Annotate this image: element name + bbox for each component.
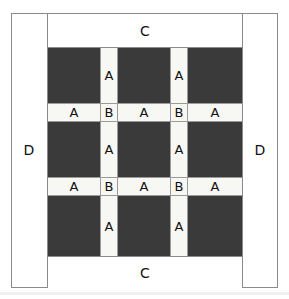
dark-cell-r3c2 <box>118 196 170 256</box>
vertical-strip-r2c2-label: A <box>175 142 184 157</box>
band-2-segment-b-left-label: B <box>105 179 114 194</box>
band-1-segment-a-left: A <box>48 104 100 121</box>
band-1-segment-b-left: B <box>100 104 118 121</box>
vertical-strip-r2c1: A <box>100 122 118 177</box>
vertical-strip-r2c2: A <box>170 122 188 177</box>
vertical-strip-r1c2: A <box>170 48 188 103</box>
vertical-strip-r3c2-label: A <box>175 219 184 234</box>
band-2-segment-b-right: B <box>170 178 188 195</box>
dark-cell-r1c1 <box>48 48 100 103</box>
band-2-segment-a-right: A <box>188 178 242 195</box>
dark-cell-r2c3 <box>188 122 242 177</box>
core-grid: A A A B A B A A <box>48 48 242 256</box>
horizontal-band-1: A B A B A <box>48 103 242 122</box>
band-top-c: C <box>48 14 242 47</box>
band-1-segment-b-right-label: B <box>175 105 184 120</box>
dark-cell-r3c3 <box>188 196 242 256</box>
band-2-segment-a-right-label: A <box>211 179 220 194</box>
band-1-segment-a-left-label: A <box>70 105 79 120</box>
band-1-segment-a-right-label: A <box>211 105 220 120</box>
dark-cell-r2c2 <box>118 122 170 177</box>
band-1-segment-a-right: A <box>188 104 242 121</box>
dark-cell-r2c1 <box>48 122 100 177</box>
vertical-strip-r1c1-label: A <box>105 68 114 83</box>
band-1-segment-a-center-label: A <box>140 105 149 120</box>
vertical-strip-r3c1-label: A <box>105 219 114 234</box>
vertical-strip-r1c2-label: A <box>175 68 184 83</box>
diagram-canvas: C C D D A A A B A <box>0 0 289 299</box>
divider-right-vertical <box>242 13 243 288</box>
band-2-segment-a-left: A <box>48 178 100 195</box>
dark-cell-r3c1 <box>48 196 100 256</box>
vertical-strip-r3c2: A <box>170 196 188 256</box>
band-bottom-c-label: C <box>140 265 150 281</box>
band-2-segment-a-center: A <box>118 178 170 195</box>
scan-artifact-line <box>0 292 289 295</box>
band-2-segment-b-left: B <box>100 178 118 195</box>
horizontal-band-2: A B A B A <box>48 177 242 196</box>
vertical-strip-r2c1-label: A <box>105 142 114 157</box>
dark-cell-r1c2 <box>118 48 170 103</box>
band-bottom-c: C <box>48 257 242 288</box>
dark-cell-r1c3 <box>188 48 242 103</box>
band-2-segment-b-right-label: B <box>175 179 184 194</box>
band-1-segment-b-right: B <box>170 104 188 121</box>
vertical-strip-r3c1: A <box>100 196 118 256</box>
vertical-strip-r1c1: A <box>100 48 118 103</box>
band-1-segment-b-left-label: B <box>105 105 114 120</box>
band-1-segment-a-center: A <box>118 104 170 121</box>
band-2-segment-a-left-label: A <box>70 179 79 194</box>
band-2-segment-a-center-label: A <box>140 179 149 194</box>
band-top-c-label: C <box>140 23 150 39</box>
